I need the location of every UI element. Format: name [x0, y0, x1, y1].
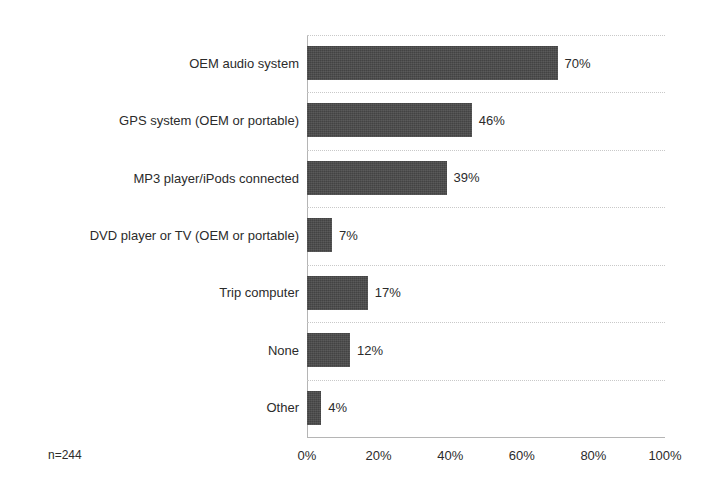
x-axis-tick-label: 0% — [277, 449, 337, 462]
bar-row: 70% — [307, 35, 665, 92]
x-axis-tick-label: 20% — [349, 449, 409, 462]
bar — [307, 276, 368, 310]
bar-value-label: 7% — [339, 229, 358, 242]
bar-row: 12% — [307, 322, 665, 379]
bar — [307, 218, 332, 252]
bar-row: 7% — [307, 207, 665, 264]
bar-value-label: 39% — [454, 171, 480, 184]
plot-area: 70% 46% 39% 7% 17% — [307, 35, 665, 437]
bar — [307, 161, 447, 195]
category-label: Other — [10, 401, 299, 414]
bar — [307, 46, 558, 80]
bar-value-label: 17% — [375, 286, 401, 299]
bar — [307, 333, 350, 367]
bar-value-label: 46% — [479, 114, 505, 127]
x-axis-tick-label: 80% — [563, 449, 623, 462]
x-axis-tick-label: 40% — [420, 449, 480, 462]
bar-row: 17% — [307, 265, 665, 322]
category-label: DVD player or TV (OEM or portable) — [10, 229, 299, 242]
category-label: MP3 player/iPods connected — [10, 172, 299, 185]
x-axis-tick-label: 60% — [492, 449, 552, 462]
category-label: GPS system (OEM or portable) — [10, 114, 299, 127]
bar-value-label: 12% — [357, 344, 383, 357]
category-label: Trip computer — [10, 286, 299, 299]
category-label: None — [10, 344, 299, 357]
x-axis-line — [307, 437, 665, 438]
bar-row: 46% — [307, 92, 665, 149]
x-axis-tick-label: 100% — [635, 449, 695, 462]
bar-row: 4% — [307, 380, 665, 437]
bar — [307, 103, 472, 137]
bar-row: 39% — [307, 150, 665, 207]
category-label: OEM audio system — [10, 57, 299, 70]
bar-value-label: 4% — [328, 401, 347, 414]
sample-size-note: n=244 — [48, 449, 82, 461]
bar-value-label: 70% — [565, 57, 591, 70]
bar — [307, 391, 321, 425]
bar-chart-figure: OEM audio system GPS system (OEM or port… — [0, 0, 709, 500]
